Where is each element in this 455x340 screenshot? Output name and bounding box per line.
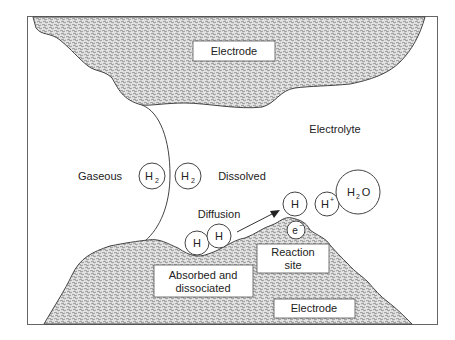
reaction-site-label-line2: site [284,259,301,271]
svg-text:2: 2 [356,193,360,200]
h-plus-ion: H + [315,192,339,216]
h2-dissolved-molecule: H 2 [175,163,201,189]
h-adsorbed-atom-1: H [185,231,209,255]
svg-text:+: + [330,196,334,203]
gaseous-label: Gaseous [78,170,123,182]
electrode-diagram: Electrode Electrolyte Reaction site Abso… [0,0,455,340]
h-adsorbed-atom-2: H [207,224,231,248]
diffusion-label: Diffusion [198,208,241,220]
svg-text:−: − [299,222,303,229]
reaction-site-label-line1: Reaction [271,246,314,258]
svg-text:H: H [321,198,329,210]
svg-text:H: H [347,186,355,198]
h2-gas-molecule: H 2 [139,163,165,189]
h-reaction-atom: H [283,192,307,216]
svg-text:2: 2 [155,177,159,184]
svg-text:H: H [215,230,223,242]
svg-text:e: e [292,225,298,236]
absorbed-label-line2: dissociated [175,282,230,294]
svg-text:H: H [291,198,299,210]
svg-text:H: H [145,170,153,182]
svg-text:O: O [362,186,371,198]
water-molecule: H 2 O [336,170,380,214]
top-electrode [33,17,425,108]
svg-text:2: 2 [191,177,195,184]
svg-text:H: H [193,237,201,249]
electrolyte-label: Electrolyte [309,123,360,135]
electron: e − [287,221,305,239]
top-electrode-label: Electrode [211,45,257,57]
absorbed-label-line1: Absorbed and [169,269,238,281]
dissolved-label: Dissolved [218,170,266,182]
bottom-electrode-label: Electrode [291,302,337,314]
svg-text:H: H [181,170,189,182]
